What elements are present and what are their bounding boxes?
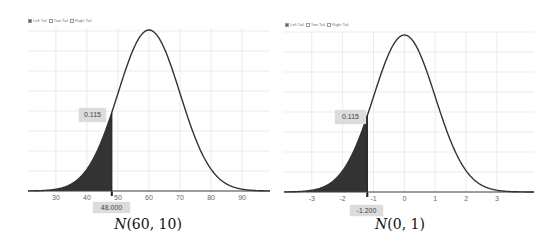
x-tick-label: 0 <box>402 195 406 202</box>
x-tick-label: 90 <box>238 194 246 201</box>
x-tick-label: 2 <box>464 195 468 202</box>
chart-panel-right: Left Tail Two Tail Right Tail -3-2-10123… <box>273 0 546 252</box>
x-tick-label: 60 <box>145 194 153 201</box>
legend-option-two-tail[interactable]: Two Tail <box>306 22 325 27</box>
cutoff-value-label[interactable]: 48.000 <box>93 202 130 213</box>
x-tick-label: 80 <box>207 194 215 201</box>
density-curve <box>284 35 534 192</box>
legend-option-right-tail[interactable]: Right Tail <box>70 18 91 23</box>
normal-curve-plot-right <box>273 0 546 252</box>
checkbox-icon[interactable] <box>49 19 53 23</box>
normal-curve-plot-left <box>0 0 273 252</box>
area-probability-label: 0.115 <box>79 108 106 122</box>
tail-legend-right: Left Tail Two Tail Right Tail <box>285 22 349 27</box>
x-tick-label: 30 <box>52 194 60 201</box>
x-tick-label: 3 <box>495 195 499 202</box>
shaded-tail-area <box>284 116 367 192</box>
checkbox-icon[interactable] <box>285 23 289 27</box>
tail-legend-left: Left Tail Two Tail Right Tail <box>28 18 92 23</box>
x-tick-label: 1 <box>433 195 437 202</box>
checkbox-icon[interactable] <box>70 19 74 23</box>
x-tick-label: 40 <box>83 194 91 201</box>
distribution-caption: N(0, 1) <box>375 216 425 232</box>
legend-option-left-tail[interactable]: Left Tail <box>28 18 47 23</box>
legend-option-two-tail[interactable]: Two Tail <box>49 18 68 23</box>
cutoff-value-label[interactable]: -1.200 <box>350 205 383 216</box>
checkbox-icon[interactable] <box>306 23 310 27</box>
checkbox-icon[interactable] <box>28 19 32 23</box>
x-tick-label: 70 <box>176 194 184 201</box>
legend-option-left-tail[interactable]: Left Tail <box>285 22 304 27</box>
chart-panel-left: Left Tail Two Tail Right Tail 3040506070… <box>0 0 273 252</box>
area-probability-label: 0.115 <box>335 110 366 124</box>
x-tick-label: -3 <box>309 195 315 202</box>
x-tick-label: -2 <box>340 195 346 202</box>
x-tick-label: -1 <box>370 195 376 202</box>
distribution-caption: N(60, 10) <box>114 216 182 232</box>
shaded-tail-area <box>28 113 112 191</box>
checkbox-icon[interactable] <box>327 23 331 27</box>
legend-option-right-tail[interactable]: Right Tail <box>327 22 348 27</box>
x-tick-label: 50 <box>114 194 122 201</box>
